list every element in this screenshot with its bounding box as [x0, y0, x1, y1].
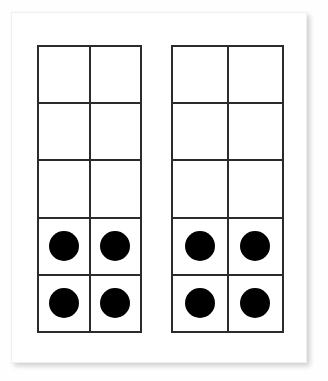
frame-cell[interactable] — [173, 276, 229, 331]
frame-row — [39, 47, 140, 104]
frame-cell[interactable] — [229, 104, 283, 159]
frame-cell[interactable] — [91, 276, 141, 331]
counter-dot-icon — [49, 288, 79, 318]
frame-row — [173, 47, 282, 104]
frame-cell[interactable] — [91, 219, 141, 274]
frame-row — [173, 161, 282, 218]
frame-row — [39, 276, 140, 331]
frame-cell[interactable] — [91, 47, 141, 102]
counter-dot-icon — [100, 288, 130, 318]
frame-row — [173, 104, 282, 161]
frame-cell[interactable] — [91, 104, 141, 159]
frame-cell[interactable] — [173, 47, 229, 102]
counter-dot-icon — [185, 288, 215, 318]
frame-cell[interactable] — [39, 161, 91, 216]
frame-cell[interactable] — [229, 219, 283, 274]
counter-dot-icon — [185, 231, 215, 261]
right-ten-frame[interactable] — [171, 45, 284, 333]
counter-dot-icon — [240, 288, 270, 318]
frame-cell[interactable] — [39, 219, 91, 274]
counter-dot-icon — [100, 231, 130, 261]
frame-cell[interactable] — [91, 161, 141, 216]
frame-row — [39, 219, 140, 276]
counter-dot-icon — [240, 231, 270, 261]
frame-cell[interactable] — [39, 47, 91, 102]
frame-row — [39, 161, 140, 218]
frame-cell[interactable] — [173, 161, 229, 216]
frame-cell[interactable] — [173, 104, 229, 159]
counter-dot-icon — [49, 231, 79, 261]
frame-cell[interactable] — [39, 104, 91, 159]
frame-row — [173, 219, 282, 276]
frame-cell[interactable] — [229, 276, 283, 331]
ten-frames-container — [37, 45, 284, 333]
worksheet-card — [11, 12, 307, 363]
frame-cell[interactable] — [173, 219, 229, 274]
frame-row — [39, 104, 140, 161]
frame-cell[interactable] — [229, 47, 283, 102]
frame-cell[interactable] — [39, 276, 91, 331]
frame-row — [173, 276, 282, 331]
left-ten-frame[interactable] — [37, 45, 142, 333]
frame-cell[interactable] — [229, 161, 283, 216]
